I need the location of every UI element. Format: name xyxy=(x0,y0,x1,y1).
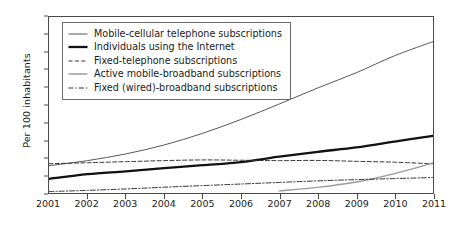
legend-label: Fixed-telephone subscriptions xyxy=(94,56,237,66)
legend-label: Individuals using the Internet xyxy=(94,42,235,52)
x-tick-label: 2006 xyxy=(229,198,253,209)
x-tick-label: 2007 xyxy=(268,198,292,209)
x-tick-mark xyxy=(357,194,358,199)
x-tick-label: 2009 xyxy=(345,198,369,209)
series-line xyxy=(279,163,433,191)
x-tick-label: 2004 xyxy=(152,198,176,209)
legend-swatch-icon xyxy=(68,42,88,52)
legend-item: Mobile-cellular telephone subscriptions xyxy=(68,27,282,41)
x-tick-mark xyxy=(280,194,281,199)
x-tick-label: 2005 xyxy=(190,198,214,209)
x-tick-label: 2002 xyxy=(75,198,99,209)
legend-label: Fixed (wired)-broadband subscriptions xyxy=(94,83,277,93)
x-tick-label: 2008 xyxy=(306,198,330,209)
legend-item: Fixed (wired)-broadband subscriptions xyxy=(68,81,282,95)
x-tick-mark xyxy=(395,194,396,199)
x-tick-mark xyxy=(202,194,203,199)
legend-swatch-icon xyxy=(68,56,88,66)
chart-container: Per 100 inhabitants 01020304050607080901… xyxy=(0,0,452,227)
y-axis-title: Per 100 inhabitants xyxy=(21,31,32,171)
x-tick-mark xyxy=(318,194,319,199)
x-tick-mark xyxy=(241,194,242,199)
legend-item: Fixed-telephone subscriptions xyxy=(68,54,282,68)
series-line xyxy=(49,178,433,192)
legend-label: Active mobile-broadband subscriptions xyxy=(94,69,281,79)
x-tick-label: 2011 xyxy=(422,198,446,209)
x-tick-label: 2010 xyxy=(383,198,407,209)
x-tick-mark xyxy=(87,194,88,199)
legend-item: Active mobile-broadband subscriptions xyxy=(68,68,282,82)
legend-swatch-icon xyxy=(68,83,88,93)
x-tick-mark xyxy=(434,194,435,199)
chart-legend: Mobile-cellular telephone subscriptionsI… xyxy=(62,22,291,100)
x-tick-mark xyxy=(164,194,165,199)
x-tick-label: 2001 xyxy=(36,198,60,209)
x-tick-mark xyxy=(125,194,126,199)
legend-swatch-icon xyxy=(68,69,88,79)
legend-item: Individuals using the Internet xyxy=(68,41,282,55)
legend-swatch-icon xyxy=(68,29,88,39)
x-tick-label: 2003 xyxy=(113,198,137,209)
legend-label: Mobile-cellular telephone subscriptions xyxy=(94,29,282,39)
